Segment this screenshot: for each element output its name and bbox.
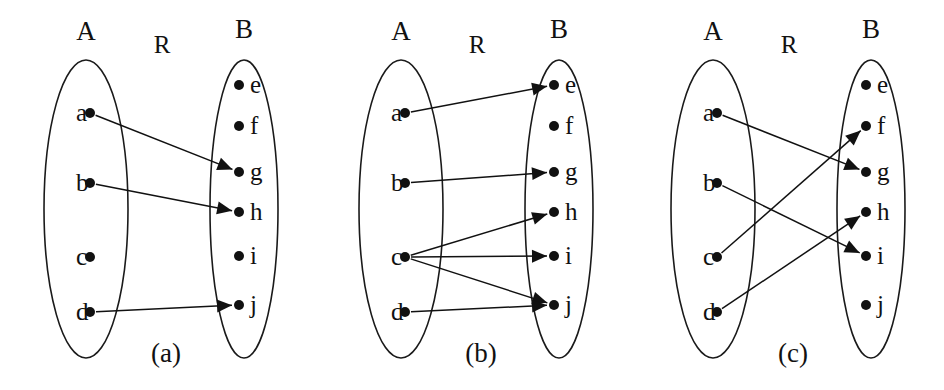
node-dot-i (861, 251, 871, 261)
arrow-head-icon (216, 158, 232, 170)
node-label-j: j (564, 291, 572, 318)
edge-line (411, 256, 547, 257)
edge-d-to-j (411, 300, 547, 313)
node-label-h: h (877, 198, 890, 225)
node-dot-e (234, 80, 244, 90)
edge-a-to-g (723, 115, 860, 170)
relation-label: R (154, 31, 171, 58)
node-label-d: d (391, 298, 404, 325)
panel-caption: (b) (465, 338, 496, 368)
panel-a: ABRabcdefghij(a) (44, 14, 278, 368)
arrow-head-icon (843, 158, 859, 170)
node-dot-g (234, 167, 244, 177)
set-b-label: B (862, 14, 880, 44)
relation-diagram-figure: ABRabcdefghij(a)ABRabcdefghij(b)ABRabcde… (0, 0, 944, 390)
set-b-label: B (550, 14, 568, 44)
node-label-j: j (249, 291, 257, 318)
node-label-g: g (250, 158, 263, 185)
node-dot-j (549, 300, 559, 310)
node-label-d: d (703, 298, 716, 325)
node-label-g: g (877, 158, 890, 185)
node-label-h: h (565, 198, 578, 225)
set-b-ellipse (525, 60, 593, 358)
relation-label: R (781, 31, 798, 58)
node-dot-f (861, 121, 871, 131)
edge-line (722, 131, 861, 253)
arrow-head-icon (531, 83, 547, 96)
edge-line (723, 115, 860, 169)
node-dot-h (549, 207, 559, 217)
arrow-head-icon (216, 201, 232, 214)
arrow-head-icon (532, 250, 547, 263)
arrow-head-icon (217, 300, 232, 313)
node-label-j: j (876, 291, 884, 318)
relation-diagram-svg: ABRabcdefghij(a)ABRabcdefghij(b)ABRabcde… (0, 0, 944, 390)
node-dot-i (234, 251, 244, 261)
node-label-f: f (565, 112, 574, 139)
node-dot-g (861, 167, 871, 177)
node-label-f: f (877, 112, 886, 139)
set-a-label: A (391, 16, 411, 46)
edge-b-to-h (96, 184, 232, 214)
node-label-a: a (703, 99, 714, 126)
node-dot-j (234, 300, 244, 310)
edge-line (411, 173, 547, 183)
edge-line (411, 305, 547, 311)
node-label-d: d (76, 298, 89, 325)
node-dot-f (234, 121, 244, 131)
node-label-a: a (76, 99, 87, 126)
node-dot-g (549, 167, 559, 177)
set-b-label: B (235, 14, 253, 44)
node-label-c: c (703, 243, 714, 270)
node-label-i: i (565, 242, 572, 269)
panel-b: ABRabcdefghij(b) (359, 14, 593, 368)
edge-line (96, 115, 233, 169)
edge-d-to-j (96, 300, 232, 313)
node-dot-i (549, 251, 559, 261)
node-label-b: b (391, 169, 404, 196)
set-a-label: A (703, 16, 723, 46)
node-label-b: b (76, 169, 89, 196)
edge-line (411, 86, 547, 112)
node-label-e: e (877, 71, 888, 98)
set-b-ellipse (837, 60, 905, 358)
node-label-h: h (250, 198, 263, 225)
panel-c: ABRabcdefghij(c) (671, 14, 905, 368)
node-dot-h (234, 207, 244, 217)
node-dot-e (549, 80, 559, 90)
node-dot-j (861, 300, 871, 310)
node-label-e: e (565, 71, 576, 98)
arrow-head-icon (531, 212, 547, 224)
node-dot-f (549, 121, 559, 131)
edge-line (96, 184, 232, 211)
node-label-i: i (250, 242, 257, 269)
arrow-head-icon (532, 167, 547, 180)
node-dot-h (861, 207, 871, 217)
node-dot-e (861, 80, 871, 90)
node-label-c: c (76, 243, 87, 270)
panel-caption: (a) (151, 338, 181, 368)
node-label-b: b (703, 169, 716, 196)
node-label-g: g (565, 158, 578, 185)
panel-caption: (c) (778, 338, 808, 368)
node-label-e: e (250, 71, 261, 98)
arrow-head-icon (844, 216, 860, 230)
edge-line (96, 305, 232, 311)
node-label-c: c (391, 243, 402, 270)
node-label-i: i (877, 242, 884, 269)
relation-label: R (469, 31, 486, 58)
edge-b-to-i (722, 186, 859, 253)
edge-a-to-g (96, 115, 233, 170)
node-label-f: f (250, 112, 259, 139)
edge-a-to-e (411, 83, 547, 112)
edge-c-to-f (722, 131, 861, 253)
set-a-label: A (76, 16, 96, 46)
edge-line (722, 186, 859, 253)
node-label-a: a (391, 99, 402, 126)
